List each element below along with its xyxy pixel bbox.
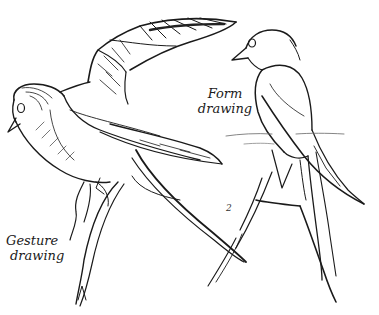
sketch-canvas: Form drawing Gesture drawing 2 [0,0,379,315]
swallow-sketches [0,0,379,315]
gesture-label-line1: Gesture [6,233,76,248]
gesture-label-line2: drawing [6,248,76,263]
form-drawing-label: Form drawing [196,86,254,116]
gesture-drawing-label: Gesture drawing [6,233,76,263]
form-bird-drawing [208,30,364,302]
step-mark: 2 [226,203,232,213]
form-label-line2: drawing [198,101,252,116]
form-label-line1: Form [208,86,243,101]
